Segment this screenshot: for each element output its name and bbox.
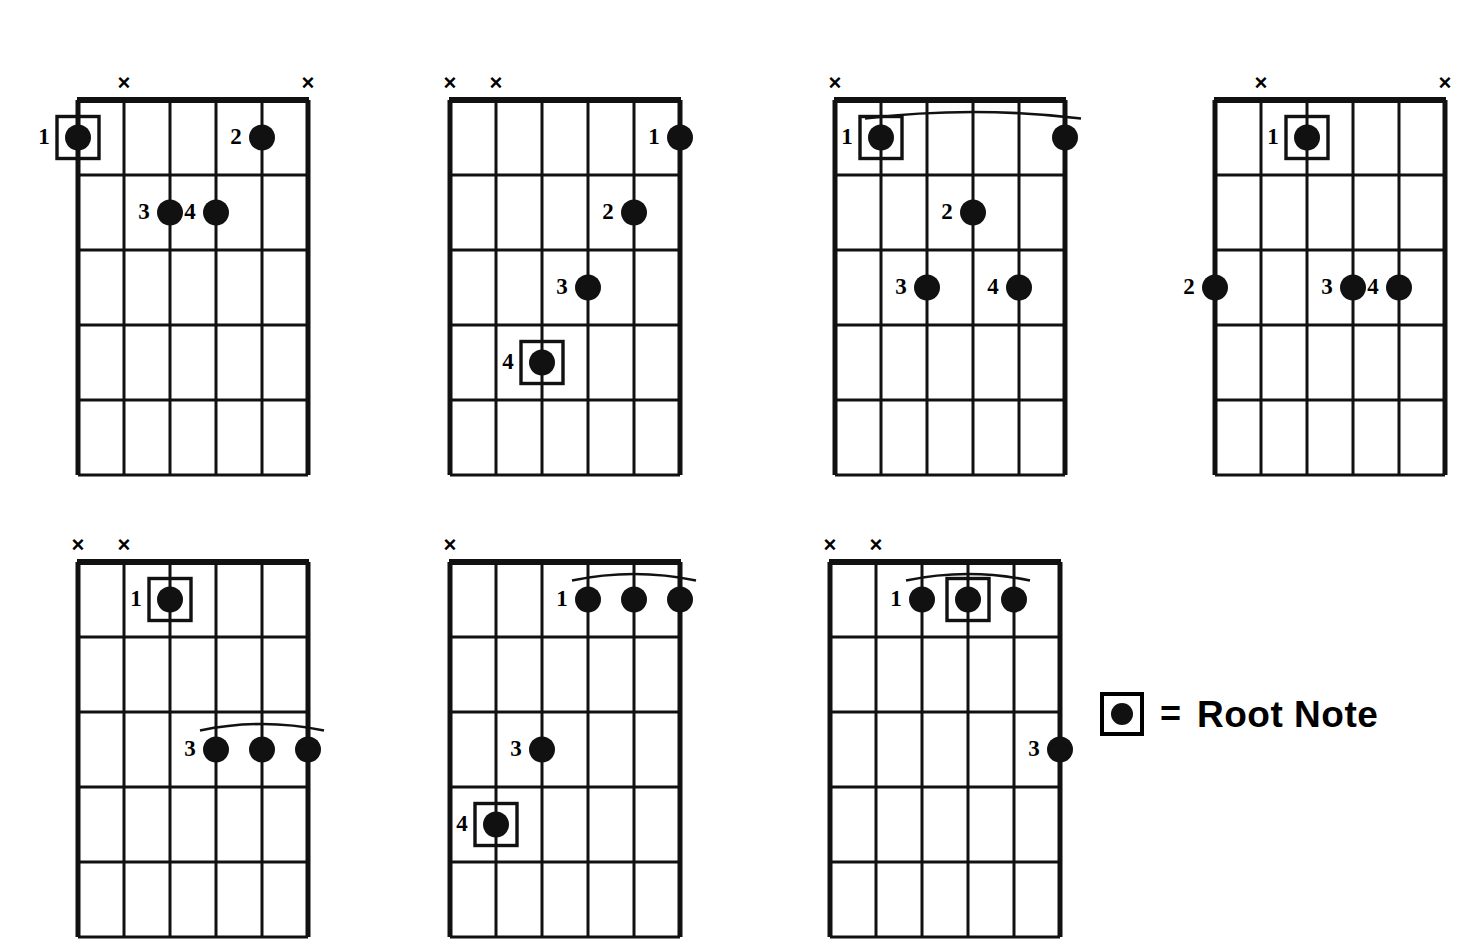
finger-dot-s4-f1 [955,587,981,613]
chord-diagram-4: ××1234 [1175,66,1463,489]
finger-dot-s4-f3 [1340,275,1366,301]
finger-dot-s3-f4 [529,350,555,376]
mute-mark-string-1: × [444,70,457,95]
finger-number-2: 2 [941,199,953,224]
mute-mark-string-2: × [118,70,131,95]
mute-mark-string-1: × [444,532,457,557]
mute-mark-string-1: × [829,70,842,95]
root-note-legend: = Root Note [1100,692,1378,736]
finger-number-3: 3 [184,736,196,761]
finger-number-3: 3 [138,199,150,224]
finger-dot-s4-f2 [960,200,986,226]
finger-number-3: 3 [510,736,522,761]
finger-dot-s3-f2 [157,200,183,226]
legend-label: Root Note [1197,696,1378,733]
root-note-swatch-icon [1100,692,1144,736]
root-dot-icon [1111,703,1133,725]
finger-number-3: 3 [895,274,907,299]
finger-dot-s5-f1 [1001,587,1027,613]
finger-dot-s4-f1 [575,587,601,613]
finger-number-1: 1 [648,124,660,149]
chord-diagram-7: ××13 [790,528,1100,946]
finger-number-1: 1 [890,586,902,611]
mute-mark-string-1: × [824,532,837,557]
finger-number-1: 1 [1267,124,1279,149]
finger-number-2: 2 [230,124,242,149]
mute-mark-string-6: × [1439,70,1452,95]
finger-number-3: 3 [1028,736,1040,761]
finger-dot-s2-f4 [483,812,509,838]
finger-number-1: 1 [38,124,50,149]
finger-dot-s1-f3 [1202,275,1228,301]
mute-mark-string-2: × [490,70,503,95]
chord-chart-sheet: ××1234××1234×1234××1234××13×134××13 = Ro… [0,0,1463,946]
mute-mark-string-2: × [870,532,883,557]
finger-number-4: 4 [1367,274,1379,299]
finger-number-1: 1 [130,586,142,611]
chord-diagram-3: ×1234 [795,66,1105,489]
finger-dot-s5-f3 [249,737,275,763]
finger-dot-s6-f3 [1047,737,1073,763]
finger-dot-s5-f2 [621,200,647,226]
finger-dot-s3-f3 [914,275,940,301]
finger-dot-s4-f3 [203,737,229,763]
finger-dot-s3-f3 [529,737,555,763]
mute-mark-string-2: × [1255,70,1268,95]
finger-dot-s4-f3 [575,275,601,301]
finger-number-1: 1 [841,124,853,149]
finger-dot-s3-f1 [1294,125,1320,151]
chord-diagram-6: ×134 [410,528,720,946]
finger-number-2: 2 [1183,274,1195,299]
finger-dot-s3-f1 [909,587,935,613]
finger-number-4: 4 [987,274,999,299]
finger-number-3: 3 [556,274,568,299]
finger-dot-s5-f3 [1386,275,1412,301]
legend-equals-sign: = [1160,696,1181,732]
finger-dot-s2-f1 [868,125,894,151]
finger-dot-s5-f3 [1006,275,1032,301]
chord-diagram-2: ××1234 [410,66,720,489]
finger-dot-s5-f1 [249,125,275,151]
finger-dot-s3-f1 [157,587,183,613]
finger-dot-s6-f1 [667,125,693,151]
finger-number-2: 2 [602,199,614,224]
finger-dot-s1-f1 [65,125,91,151]
finger-number-4: 4 [456,811,468,836]
finger-number-3: 3 [1321,274,1333,299]
finger-dot-s6-f1 [667,587,693,613]
mute-mark-string-6: × [302,70,315,95]
finger-number-4: 4 [184,199,196,224]
finger-dot-s4-f2 [203,200,229,226]
finger-dot-s6-f3 [295,737,321,763]
mute-mark-string-1: × [72,532,85,557]
finger-number-1: 1 [556,586,568,611]
finger-number-4: 4 [502,349,514,374]
finger-dot-s6-f1 [1052,125,1078,151]
chord-diagram-1: ××1234 [38,66,348,489]
chord-diagram-5: ××13 [38,528,348,946]
finger-dot-s5-f1 [621,587,647,613]
mute-mark-string-2: × [118,532,131,557]
